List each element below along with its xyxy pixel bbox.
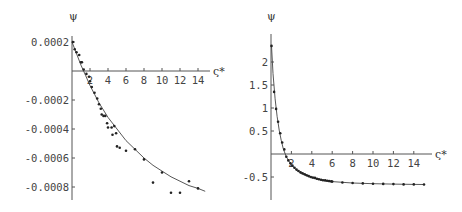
data-point bbox=[89, 80, 92, 83]
right-y-axis-label: ψ bbox=[267, 10, 276, 23]
x-tick-label: 8 bbox=[141, 74, 147, 86]
left-y-axis-label: ψ bbox=[69, 10, 78, 23]
data-point bbox=[113, 125, 116, 128]
right-y-ticks: 21.510.5-0.5 bbox=[243, 56, 274, 183]
data-point bbox=[111, 134, 114, 137]
y-tick-label: -0.0008 bbox=[25, 181, 69, 193]
x-tick-label: 14 bbox=[407, 157, 420, 169]
right-plot: ψ ς* 21.510.5-0.5 2468101214 bbox=[243, 10, 447, 200]
data-point bbox=[372, 182, 375, 185]
data-point bbox=[152, 181, 155, 184]
data-point bbox=[351, 182, 354, 185]
data-point bbox=[100, 107, 103, 110]
y-tick-label: 2 bbox=[262, 56, 268, 68]
data-point bbox=[283, 148, 286, 151]
data-point bbox=[161, 171, 164, 174]
left-fit-curve bbox=[72, 42, 205, 191]
data-point bbox=[341, 181, 344, 184]
data-point bbox=[413, 183, 416, 186]
data-point bbox=[107, 126, 110, 129]
data-point bbox=[293, 167, 296, 170]
data-point bbox=[115, 132, 118, 135]
data-point bbox=[188, 180, 191, 183]
data-point bbox=[423, 183, 426, 186]
left-data-points bbox=[72, 41, 200, 194]
y-tick-label: -0.0004 bbox=[25, 123, 69, 135]
data-point bbox=[106, 122, 109, 125]
data-point bbox=[197, 187, 200, 190]
data-point bbox=[116, 145, 119, 148]
data-point bbox=[279, 132, 282, 135]
data-point bbox=[125, 150, 128, 153]
data-point bbox=[289, 162, 292, 165]
data-point bbox=[179, 192, 182, 195]
data-point bbox=[75, 51, 78, 54]
left-plot: ψ ς* 0.0002-0.0002-0.0004-0.0006-0.0008 … bbox=[25, 10, 225, 200]
x-tick-label: 12 bbox=[174, 74, 187, 86]
x-tick-label: 10 bbox=[367, 157, 380, 169]
left-y-ticks: 0.0002-0.0002-0.0004-0.0006-0.0008 bbox=[25, 36, 75, 193]
x-tick-label: 4 bbox=[105, 74, 111, 86]
data-point bbox=[134, 148, 137, 151]
data-point bbox=[78, 54, 81, 57]
data-point bbox=[110, 126, 113, 129]
x-tick-label: 12 bbox=[387, 157, 400, 169]
data-point bbox=[143, 158, 146, 161]
data-point bbox=[287, 159, 290, 162]
data-point bbox=[104, 115, 107, 118]
data-point bbox=[382, 183, 385, 186]
y-tick-label: 1 bbox=[262, 102, 268, 114]
data-point bbox=[275, 108, 278, 111]
data-point bbox=[85, 73, 88, 76]
data-point bbox=[277, 121, 280, 124]
left-x-axis-label: ς* bbox=[213, 65, 225, 78]
data-point bbox=[91, 86, 94, 89]
data-point bbox=[362, 182, 365, 185]
data-point bbox=[281, 141, 284, 144]
data-point bbox=[270, 45, 273, 48]
data-point bbox=[402, 183, 405, 186]
data-point bbox=[82, 68, 85, 71]
chart-canvas: ψ ς* 0.0002-0.0002-0.0004-0.0006-0.0008 … bbox=[0, 0, 462, 212]
x-tick-label: 14 bbox=[192, 74, 205, 86]
x-tick-label: 10 bbox=[156, 74, 169, 86]
x-tick-label: 4 bbox=[309, 157, 315, 169]
data-point bbox=[331, 180, 334, 183]
data-point bbox=[170, 192, 173, 195]
y-tick-label: 0.0002 bbox=[31, 36, 69, 48]
data-point bbox=[93, 92, 96, 95]
y-tick-label: -0.0006 bbox=[25, 152, 69, 164]
right-x-axis-label: ς* bbox=[435, 148, 447, 161]
data-point bbox=[96, 97, 99, 100]
data-point bbox=[88, 76, 91, 79]
x-tick-label: 8 bbox=[349, 157, 355, 169]
y-tick-label: 1.5 bbox=[249, 79, 268, 91]
x-tick-label: 6 bbox=[329, 157, 335, 169]
data-point bbox=[118, 147, 121, 150]
y-tick-label: 0.5 bbox=[249, 125, 268, 137]
y-tick-label: -0.5 bbox=[243, 171, 268, 183]
data-point bbox=[98, 103, 101, 106]
data-point bbox=[392, 183, 395, 186]
data-point bbox=[273, 91, 276, 94]
data-point bbox=[81, 61, 84, 64]
data-point bbox=[291, 164, 294, 167]
data-point bbox=[73, 48, 76, 51]
data-point bbox=[72, 41, 75, 44]
y-tick-label: -0.0002 bbox=[25, 94, 69, 106]
x-tick-label: 6 bbox=[123, 74, 129, 86]
data-point bbox=[285, 156, 288, 159]
